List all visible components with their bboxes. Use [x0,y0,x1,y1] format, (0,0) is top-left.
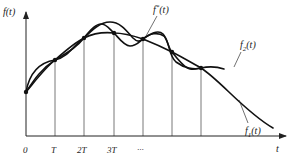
curve-f1 [26,33,273,128]
y-axis-label: f(t) [3,6,16,18]
x-axis-label: t [276,143,279,154]
sample-point [53,58,57,62]
curve-f2 [26,22,224,92]
sample-point [199,66,203,70]
tick-label-ellipsis: ··· [137,144,144,154]
label-f-star: f*(t) [153,3,169,16]
sample-point [141,37,145,41]
function-sampling-diagram: f(t) t 0 T 2T 3T ··· f*(t) f2(t) f1(t) [0,0,295,160]
leader-f2 [234,52,241,67]
tick-label-3T: 3T [106,145,118,155]
sample-grid-lines [55,33,201,136]
tick-label-2T: 2T [77,145,88,155]
label-f1: f1(t) [245,125,261,139]
leader-f1 [239,100,248,123]
tick-label-T: T [51,145,57,155]
sample-point [170,50,174,54]
sample-point [82,36,86,40]
sample-point [24,90,28,94]
sample-point [112,31,116,35]
tick-label-0: 0 [23,145,28,155]
label-f2: f2(t) [240,39,256,53]
